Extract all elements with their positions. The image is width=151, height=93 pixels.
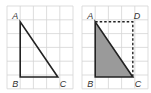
vertex-label-d: D	[134, 11, 141, 21]
vertex-label-a: A	[11, 11, 18, 21]
vertex-label-c: C	[60, 79, 67, 89]
triangle-abc-outline	[20, 22, 58, 77]
figure-triangle-in-rectangle-abcd: DABC	[82, 6, 148, 89]
geometry-diagram: ABC DABC	[0, 0, 151, 93]
vertex-label-b: B	[87, 79, 93, 89]
vertex-label-b: B	[12, 79, 18, 89]
figure-triangle-abc: ABC	[7, 6, 73, 89]
vertex-label-a: A	[86, 11, 93, 21]
vertex-label-c: C	[135, 79, 142, 89]
